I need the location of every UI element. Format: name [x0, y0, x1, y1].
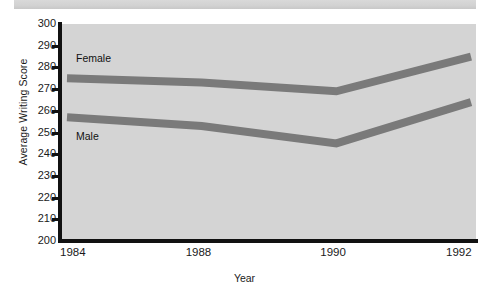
y-tick-label: 240 — [22, 148, 56, 159]
series-label-male: Male — [76, 130, 99, 142]
line-chart: Average Writing Score 300290280270260250… — [0, 0, 489, 296]
y-tick-label: 200 — [22, 235, 56, 246]
y-tick-label: 260 — [22, 105, 56, 116]
x-tick-label: 1992 — [446, 246, 472, 258]
y-tick-label: 230 — [22, 170, 56, 181]
y-tick-label: 210 — [22, 213, 56, 224]
y-tick-mark — [52, 66, 62, 69]
x-tick-label: 1984 — [60, 246, 86, 258]
x-tick-label: 1988 — [186, 246, 212, 258]
y-tick-mark — [52, 132, 62, 135]
y-tick-mark — [52, 175, 62, 178]
y-tick-mark — [52, 88, 62, 91]
y-tick-mark — [52, 110, 62, 113]
x-axis-title: Year — [0, 272, 489, 284]
plot-area: Female Male — [62, 24, 476, 241]
y-tick-label: 280 — [22, 61, 56, 72]
y-axis-tick-labels: 300290280270260250240230220210200 — [22, 0, 56, 296]
y-tick-mark — [52, 197, 62, 200]
y-tick-mark — [52, 45, 62, 48]
y-tick-mark — [52, 218, 62, 221]
x-axis-line — [58, 239, 478, 243]
x-tick-label: 1990 — [320, 246, 346, 258]
y-tick-label: 250 — [22, 127, 56, 138]
plot-svg — [62, 24, 476, 241]
series-line-female — [67, 57, 471, 92]
series-label-female: Female — [76, 52, 111, 64]
series-line-male — [67, 102, 471, 143]
y-tick-label: 300 — [22, 18, 56, 29]
y-tick-label: 270 — [22, 83, 56, 94]
y-tick-mark — [52, 153, 62, 156]
y-tick-label: 290 — [22, 40, 56, 51]
y-tick-label: 220 — [22, 192, 56, 203]
